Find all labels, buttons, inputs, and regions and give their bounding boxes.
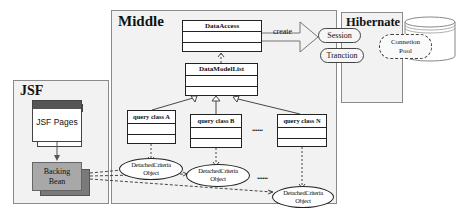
detached-criteria-a-line2: Object	[120, 169, 182, 177]
detached-ellipsis: ......	[257, 171, 268, 181]
detached-criteria-n: DetachedCriteria Object	[272, 186, 334, 208]
detached-criteria-a: DetachedCriteria Object	[119, 158, 183, 180]
transaction: Tranction	[320, 48, 364, 63]
class-query-n-title: query class N	[278, 115, 326, 128]
middle-frame-title: Middle	[118, 13, 164, 30]
class-query-a-title: query class A	[128, 111, 175, 124]
detached-criteria-b-line1: DetachedCriteria	[187, 167, 249, 175]
jsf-pages-header	[33, 101, 81, 109]
class-query-n: query class N	[277, 114, 327, 147]
create-label: create	[273, 27, 292, 36]
detached-criteria-n-line1: DetachedCriteria	[273, 189, 333, 197]
connection-pool-line1: Connetion	[380, 38, 431, 47]
jsf-pages-label: JSF Pages	[33, 117, 81, 127]
class-query-a: query class A	[127, 110, 176, 144]
query-class-ellipsis: ......	[252, 123, 263, 133]
detached-criteria-b-line2: Object	[187, 175, 249, 183]
backing-bean: Backing Bean	[32, 162, 82, 191]
jsf-frame-title: JSF	[20, 83, 43, 99]
class-query-b-title: query class B	[191, 115, 241, 128]
detached-criteria-b: DetachedCriteria Object	[186, 164, 250, 187]
backing-bean-line2: Bean	[33, 177, 81, 187]
transaction-label: Tranction	[327, 51, 358, 60]
session-label: Session	[327, 31, 351, 40]
jsf-pages: JSF Pages	[32, 100, 82, 142]
class-data-access: DataAccess	[182, 20, 262, 52]
detached-criteria-n-line2: Object	[273, 197, 333, 205]
connection-pool: Connetion Pool	[379, 34, 432, 59]
class-data-model-list: DataModelList	[185, 63, 258, 96]
class-data-access-title: DataAccess	[183, 21, 261, 32]
class-data-model-list-title: DataModelList	[186, 64, 257, 76]
connection-pool-line2: Pool	[380, 47, 431, 56]
session: Session	[318, 28, 361, 43]
backing-bean-line1: Backing	[33, 167, 81, 177]
detached-criteria-a-line1: DetachedCriteria	[120, 161, 182, 169]
class-query-b: query class B	[190, 114, 242, 148]
